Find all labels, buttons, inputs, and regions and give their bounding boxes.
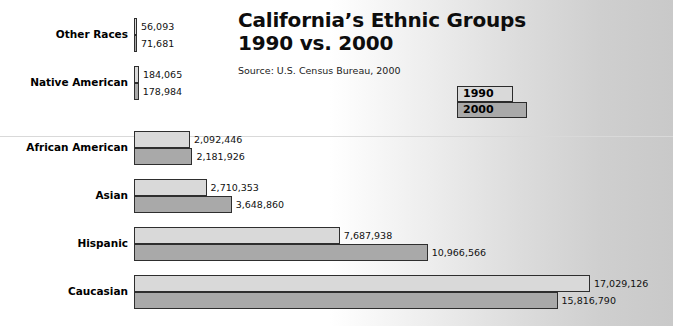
bar-2000 [134,148,192,165]
category-label: Native American [0,76,128,88]
bar-value-label: 2,181,926 [196,148,244,165]
bar-value-label: 71,681 [141,35,174,52]
bar-value-label: 178,984 [143,83,182,100]
bar-1990 [134,18,137,35]
category-label: African American [0,141,128,153]
bar-group: Caucasian17,029,12615,816,790 [0,275,673,309]
bar-2000 [134,196,232,213]
bar-1990 [134,227,340,244]
category-label: Asian [0,189,128,201]
bar-1990 [134,66,139,83]
bar-2000 [134,244,428,261]
bar-value-label: 2,710,353 [211,179,259,196]
bar-value-label: 56,093 [141,18,174,35]
bar-2000 [134,83,139,100]
bar-value-label: 10,966,566 [432,244,486,261]
bar-group: Other Races56,09371,681 [0,18,673,52]
bar-group: African American2,092,4462,181,926 [0,131,673,165]
bar-1990 [134,131,190,148]
bar-value-label: 3,648,860 [236,196,284,213]
bar-value-label: 184,065 [143,66,182,83]
bar-1990 [134,275,590,292]
category-label: Hispanic [0,237,128,249]
bar-value-label: 2,092,446 [194,131,242,148]
category-label: Other Races [0,28,128,40]
bar-1990 [134,179,207,196]
bar-group: Native American184,065178,984 [0,66,673,100]
plot-area: Other Races56,09371,681Native American18… [0,0,673,326]
bar-2000 [134,292,558,309]
ethnic-groups-bar-chart: California’s Ethnic Groups 1990 vs. 2000… [0,0,673,326]
bar-value-label: 15,816,790 [562,292,616,309]
category-label: Caucasian [0,285,128,297]
bar-group: Asian2,710,3533,648,860 [0,179,673,213]
bar-value-label: 17,029,126 [594,275,648,292]
bar-2000 [134,35,137,52]
bar-value-label: 7,687,938 [344,227,392,244]
bar-group: Hispanic7,687,93810,966,566 [0,227,673,261]
